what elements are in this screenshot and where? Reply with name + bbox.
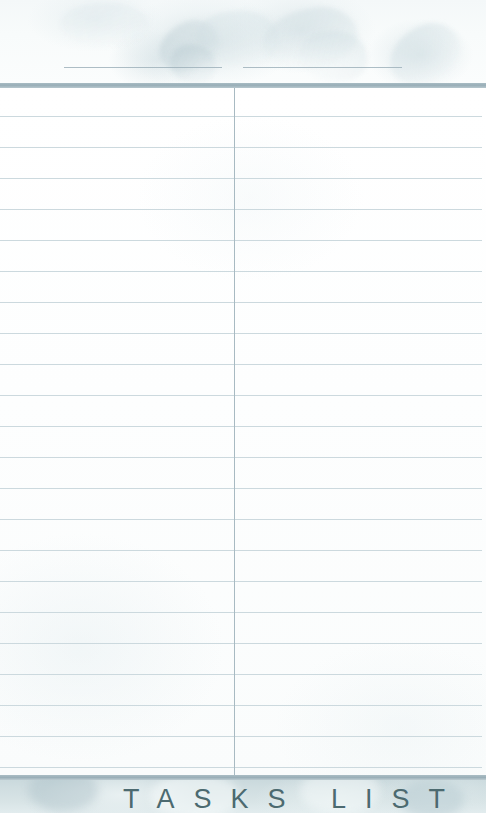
notepad-page: TASKS LIST [0, 0, 486, 813]
rule-line [0, 488, 482, 489]
rule-line [0, 612, 482, 613]
rule-line [0, 643, 482, 644]
column-divider-line [234, 88, 235, 775]
rule-line [0, 705, 482, 706]
rule-line [0, 736, 482, 737]
rule-line [0, 674, 482, 675]
ruled-writing-area[interactable] [0, 88, 486, 775]
rule-line [0, 550, 482, 551]
rule-line [0, 457, 482, 458]
rule-line [0, 581, 482, 582]
footer-divider-bar [0, 775, 486, 780]
rule-line [0, 178, 482, 179]
rule-line [0, 240, 482, 241]
petal-shape-icon [380, 14, 470, 84]
paper-texture-wash [0, 88, 486, 775]
rule-line [0, 302, 482, 303]
rule-line [0, 519, 482, 520]
rule-line [0, 147, 482, 148]
header-write-line-right[interactable] [243, 67, 402, 68]
rule-line [0, 116, 482, 117]
rule-line [0, 395, 482, 396]
page-title: TASKS LIST [0, 784, 486, 813]
header-photo-band [0, 0, 486, 84]
rule-line [0, 209, 482, 210]
petal-shape-icon [59, 0, 152, 49]
rule-line [0, 767, 482, 768]
rule-line [0, 333, 482, 334]
header-write-line-left[interactable] [64, 67, 222, 68]
rule-line [0, 364, 482, 365]
rule-line [0, 426, 482, 427]
rule-line [0, 271, 482, 272]
